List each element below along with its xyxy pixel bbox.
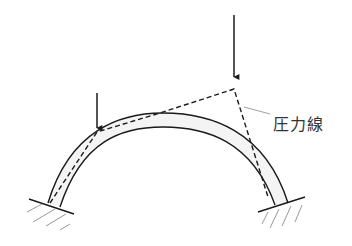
arch (48, 113, 288, 207)
pressure-line-label: 圧力線 (273, 111, 324, 135)
label-leader-line (244, 107, 270, 114)
